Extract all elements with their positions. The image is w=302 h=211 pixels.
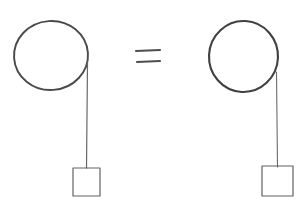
sketch-canvas — [0, 0, 302, 211]
right-pulley-wheel-icon — [207, 19, 280, 94]
left-hanging-mass-block — [73, 168, 100, 196]
right-pulley-system — [207, 19, 293, 196]
equals-sign-upper-bar-icon — [136, 50, 160, 51]
pulley-equivalence-diagram — [0, 0, 302, 211]
right-rope-segment — [277, 72, 278, 167]
left-pulley-system — [12, 19, 100, 196]
equals-sign — [136, 50, 160, 62]
right-hanging-mass-block — [262, 166, 293, 196]
equals-sign-lower-bar-icon — [137, 61, 160, 62]
left-pulley-wheel-icon — [12, 19, 91, 93]
left-rope-segment — [87, 62, 88, 168]
